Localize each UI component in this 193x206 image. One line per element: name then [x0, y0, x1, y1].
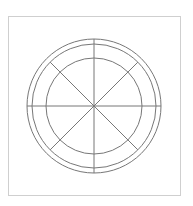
spoke-225deg [50, 106, 94, 150]
spokes-group [27, 39, 161, 173]
diagram-canvas [0, 0, 193, 206]
spoke-315deg [94, 106, 138, 150]
spoke-135deg [50, 62, 94, 106]
spoke-45deg [94, 62, 138, 106]
